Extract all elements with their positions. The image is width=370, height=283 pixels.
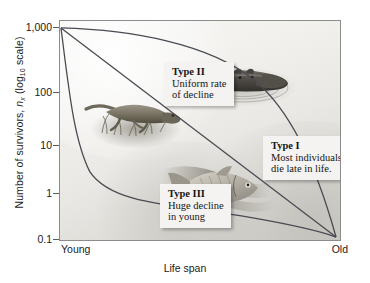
callout-type-2-line2: of decline [172,89,227,101]
callout-type-2-line1: Uniform rate [172,78,227,90]
callout-type-1-heading: Type I [271,140,341,152]
callout-type-1-line1: Most individuals [271,152,341,164]
x-axis-title: Life span [0,262,370,274]
y-tick-label-0.1: 0.1 [37,233,52,245]
y-axis-title: Number of survivors, nx (log10 scale) [13,8,26,238]
y-tick-label-1000: 1,000 [26,21,52,33]
y-axis-symbol: n [13,101,25,107]
callout-type-3-line1: Huge decline [168,200,224,212]
y-axis-title-suffix: (log [13,76,25,97]
survivorship-curve-figure: Number of survivors, nx (log10 scale) 1,… [0,0,370,283]
x-tick-label-old: Old [332,243,348,255]
plot-area: Type II Uniform rate of decline Type I M… [59,20,341,241]
y-axis-title-prefix: Number of survivors, [13,107,25,209]
y-axis-log-base: 10 [19,68,26,76]
y-tick-label-10: 10 [40,139,52,151]
y-axis-symbol-subscript: x [19,97,26,101]
y-tick-label-1: 1 [46,187,52,199]
y-axis-title-end: scale) [13,36,25,68]
y-tick-label-100: 100 [34,86,52,98]
callout-type-3: Type III Huge decline in young [160,184,231,228]
callout-type-3-line2: in young [168,211,224,223]
callout-type-3-heading: Type III [168,188,224,200]
callout-type-2: Type II Uniform rate of decline [164,62,234,106]
callout-type-1: Type I Most individuals die late in life… [263,136,341,180]
x-tick-label-young: Young [61,243,90,255]
callout-type-2-heading: Type II [172,66,227,78]
callout-type-1-line2: die late in life. [271,163,341,175]
